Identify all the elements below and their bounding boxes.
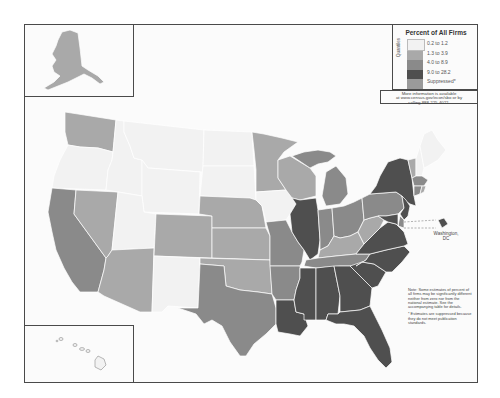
dc-label-line: DC — [431, 236, 461, 241]
info-line: calling 888-225-4022. — [381, 101, 477, 106]
legend-swatch-class3 — [407, 60, 423, 70]
legend-label: 9.0 to 28.2 — [427, 68, 456, 78]
legend-label: Suppressed* — [427, 77, 456, 87]
legend-label: 1.3 to 3.9 — [427, 49, 456, 59]
note-text: Note: Some estimates of percent of all f… — [408, 288, 472, 309]
state-HI[interactable] — [56, 338, 106, 371]
legend-swatches — [407, 39, 423, 89]
state-CO[interactable] — [154, 214, 212, 258]
state-OR[interactable] — [52, 145, 113, 190]
legend-label: 0.2 to 1.2 — [427, 39, 456, 49]
state-ME[interactable] — [420, 130, 446, 168]
state-AK[interactable] — [44, 30, 104, 90]
state-NM[interactable] — [152, 256, 200, 312]
legend-title: Percent of All Firms — [393, 29, 479, 36]
legend-axis-label: Quantiles — [396, 38, 401, 57]
state-MA[interactable] — [412, 176, 428, 186]
suppressed-footnote: * Estimates are suppressed because they … — [408, 312, 472, 325]
state-SD[interactable] — [200, 166, 256, 200]
state-FL[interactable] — [326, 306, 392, 368]
legend-swatch-class1 — [407, 39, 425, 51]
dc-label: Washington, DC — [431, 231, 461, 241]
legend: Percent of All Firms Quantiles 0.2 to 1.… — [392, 24, 478, 90]
state-DC[interactable] — [438, 218, 448, 228]
legend-label: 4.0 to 8.9 — [427, 58, 456, 68]
state-KS[interactable] — [212, 228, 270, 260]
map-notes: Note: Some estimates of percent of all f… — [408, 288, 472, 328]
state-AZ[interactable] — [98, 248, 154, 312]
legend-labels: 0.2 to 1.2 1.3 to 3.9 4.0 to 8.9 9.0 to … — [427, 39, 456, 87]
legend-swatch-class4 — [407, 70, 423, 80]
legend-swatch-class2 — [407, 51, 423, 61]
info-box: More information is available at www.cen… — [380, 90, 478, 104]
state-ND[interactable] — [203, 130, 254, 166]
legend-swatch-suppressed — [407, 79, 423, 89]
